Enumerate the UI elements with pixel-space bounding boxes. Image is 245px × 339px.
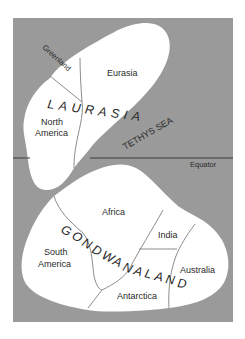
pangaea-map: Greenland Eurasia LAURASIA North America… [0, 0, 245, 339]
label-eurasia: Eurasia [107, 68, 138, 78]
label-north-america-line1: North [41, 117, 63, 127]
label-equator: Equator [190, 160, 217, 169]
label-south-america-line1: South [44, 247, 68, 257]
label-india: India [158, 230, 178, 240]
label-australia: Australia [180, 265, 215, 275]
label-north-america-line2: America [35, 128, 68, 138]
label-antarctica: Antarctica [117, 291, 157, 301]
gondwana-letter: D [177, 276, 188, 291]
label-south-america-line2: America [38, 259, 71, 269]
label-africa: Africa [102, 207, 125, 217]
